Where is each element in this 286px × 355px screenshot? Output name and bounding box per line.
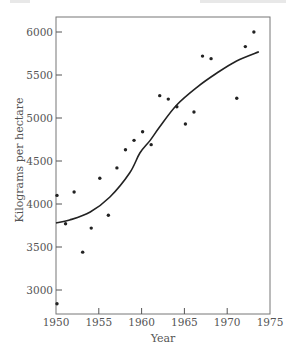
x-tick-label: 1960 — [128, 316, 155, 328]
data-point — [141, 130, 144, 133]
y-tick-label: 4000 — [26, 198, 53, 210]
data-point — [81, 250, 84, 253]
data-point — [175, 105, 178, 108]
data-point — [64, 222, 67, 225]
data-point — [167, 97, 170, 100]
y-axis-title: Kilograms per hectare — [13, 97, 26, 222]
data-point — [107, 213, 110, 216]
data-point — [55, 194, 58, 197]
data-point — [192, 110, 195, 113]
y-tick-label: 3500 — [26, 241, 53, 253]
data-point — [201, 54, 204, 57]
data-point — [235, 97, 238, 100]
x-axis-title: Year — [150, 332, 176, 345]
data-point — [149, 143, 152, 146]
y-tick-label: 6000 — [26, 26, 53, 38]
x-tick-label: 1975 — [257, 316, 284, 328]
plot-frame — [56, 17, 270, 314]
x-tick-label: 1950 — [43, 316, 70, 328]
y-tick-label: 4500 — [26, 155, 53, 167]
x-tick-label: 1965 — [171, 316, 198, 328]
data-point — [115, 166, 118, 169]
y-tick-label: 5500 — [26, 69, 53, 81]
data-point — [55, 302, 58, 305]
data-point — [252, 30, 255, 33]
fitted-trend-curve — [56, 52, 259, 223]
data-point — [98, 177, 101, 180]
data-point — [158, 94, 161, 97]
y-tick-label: 5000 — [26, 112, 53, 124]
data-point — [184, 122, 187, 125]
x-tick-label: 1970 — [214, 316, 241, 328]
data-points — [55, 30, 255, 305]
x-tick-label: 1955 — [85, 316, 112, 328]
y-axis-ticks: 3000350040004500500055006000 — [26, 26, 62, 296]
data-point — [90, 226, 93, 229]
chart: 3000350040004500500055006000 19501955196… — [0, 0, 286, 355]
y-tick-label: 3000 — [26, 284, 53, 296]
data-point — [72, 190, 75, 193]
x-axis-ticks: 195019551960196519701975 — [43, 308, 284, 328]
data-point — [132, 139, 135, 142]
data-point — [244, 45, 247, 48]
data-point — [124, 148, 127, 151]
data-point — [209, 57, 212, 60]
